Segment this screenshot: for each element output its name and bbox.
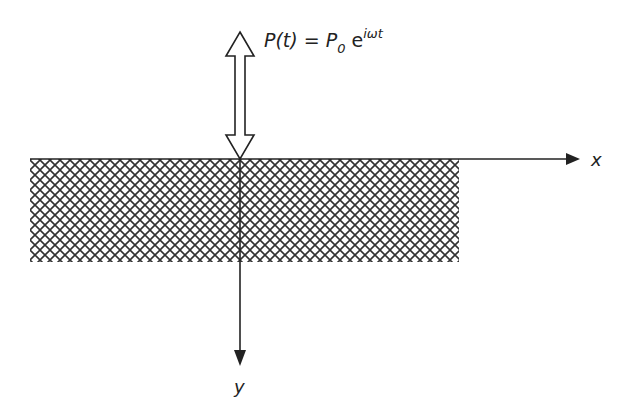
y-axis-arrowhead-icon <box>234 350 246 366</box>
half-space-region <box>30 159 459 262</box>
half-space-diagram: P(t) = P0 eiωt x y <box>0 0 633 417</box>
y-axis-label: y <box>233 376 245 397</box>
x-axis-arrowhead-icon <box>566 153 580 165</box>
force-double-arrow-icon <box>226 32 254 159</box>
force-label: P(t) = P0 eiωt <box>264 26 384 56</box>
x-axis-label: x <box>590 149 602 170</box>
